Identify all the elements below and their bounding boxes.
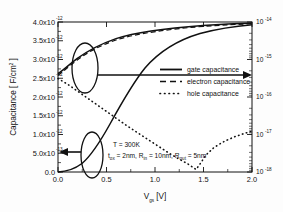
annotation-temperature: T = 300K — [113, 141, 140, 148]
svg-text:Vgs [V]: Vgs [V] — [144, 192, 167, 203]
y-axis-title: Capacitance [ F/cm2 ] — [9, 58, 18, 136]
param-1-value: = 10nm, — [147, 152, 175, 159]
chart-svg: 0.0 5.0x10 -13 1.0x10 -12 1.5x10 -12 2.0… — [0, 0, 283, 212]
x-tick-label-1: 0.5 — [101, 175, 111, 184]
left-tick-exp-7: -12 — [56, 35, 63, 40]
right-tick-exp-0: -14 — [265, 17, 272, 22]
left-tick-exp-6: -12 — [56, 54, 63, 59]
left-tick-mantissa-8: 4.0x10 — [33, 18, 55, 27]
right-tick-base-4: 10 — [256, 168, 264, 175]
left-tick-mantissa-1: 5.0x10 — [33, 149, 55, 158]
x-tick-label-3: 1.5 — [198, 175, 208, 184]
right-axis-tick-labels: 10 -14 10 -15 10 -16 10 -17 10 -18 — [256, 17, 272, 176]
param-0-value: = 2nm, — [115, 152, 139, 159]
left-tick-mantissa-3: 1.5x10 — [33, 111, 55, 120]
right-tick-exp-4: -18 — [265, 167, 272, 172]
right-tick-base-0: 10 — [256, 18, 264, 25]
right-tick-exp-2: -16 — [265, 92, 272, 97]
right-tick-base-3: 10 — [256, 131, 264, 138]
right-tick-label-4: 10 -18 — [256, 167, 272, 176]
legend-label-gate-capacitance: gate capacitance — [187, 66, 239, 74]
left-tick-mantissa-4: 2.0x10 — [33, 93, 55, 102]
x-axis-title-unit: [V] — [154, 192, 166, 201]
left-tick-exp-2: -12 — [56, 129, 63, 134]
right-tick-label-3: 10 -17 — [256, 129, 272, 138]
y-axis-title-tail: ] — [9, 58, 18, 63]
right-tick-exp-3: -17 — [265, 129, 272, 134]
left-tick-mantissa-6: 3.0x10 — [33, 55, 55, 64]
right-tick-label-1: 10 -15 — [256, 54, 272, 63]
right-tick-base-1: 10 — [256, 56, 264, 63]
x-tick-label-4: 2.0 — [247, 175, 257, 184]
right-tick-label-2: 10 -16 — [256, 92, 272, 101]
right-tick-label-0: 10 -14 — [256, 17, 272, 26]
x-axis-tick-labels: 0.0 0.5 1.0 1.5 2.0 — [53, 175, 257, 184]
legend-label-hole-capacitance: hole capacitance — [187, 90, 239, 98]
x-tick-label-2: 1.0 — [150, 175, 160, 184]
left-tick-exp-4: -12 — [56, 91, 63, 96]
left-tick-mantissa-5: 2.5x10 — [33, 74, 55, 83]
y-axis-title-text: Capacitance [ F/cm — [9, 65, 18, 136]
legend-label-electron-capacitance: electron capacitance — [187, 78, 250, 86]
left-tick-exp-8: -12 — [56, 16, 63, 21]
right-tick-exp-1: -15 — [265, 54, 272, 59]
left-tick-mantissa-7: 3.5x10 — [33, 36, 55, 45]
x-tick-label-0: 0.0 — [53, 175, 63, 184]
right-tick-base-2: 10 — [256, 93, 264, 100]
param-2-value: = 5nm — [186, 152, 207, 159]
left-tick-mantissa-2: 1.0x10 — [33, 130, 55, 139]
svg-text:Capacitance [ F/cm2 ]: Capacitance [ F/cm2 ] — [9, 58, 18, 136]
left-tick-exp-3: -12 — [56, 110, 63, 115]
plot-area-frame — [58, 22, 252, 172]
x-axis-title: Vgs [V] — [144, 192, 167, 203]
capacitance-voltage-chart: 0.0 5.0x10 -13 1.0x10 -12 1.5x10 -12 2.0… — [0, 0, 283, 212]
